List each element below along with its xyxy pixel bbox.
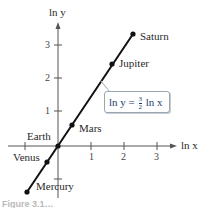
label-mercury: Mercury <box>36 181 74 192</box>
label-mars: Mars <box>79 123 102 134</box>
x-tick-label-3: 3 <box>154 152 159 162</box>
equation-lhs: ln y = <box>109 96 135 108</box>
point-jupiter <box>109 61 114 66</box>
y-axis-label: ln y <box>49 7 66 18</box>
x-axis-label: ln x <box>181 140 198 151</box>
y-tick-label-3: 3 <box>45 40 50 50</box>
figure-caption: Figure 3.1… <box>2 199 54 208</box>
x-axis-label-text: ln x <box>181 139 198 151</box>
x-tick-label-2: 2 <box>121 152 126 162</box>
point-earth <box>55 143 60 148</box>
point-saturn <box>130 31 135 36</box>
x-tick-label-1: 1 <box>89 152 94 162</box>
y-axis-arrow-icon <box>56 22 61 29</box>
equation-fraction: 3 2 <box>139 96 143 111</box>
point-mars <box>69 122 74 127</box>
y-tick-label-2: 2 <box>45 73 50 83</box>
regression-line <box>27 34 133 192</box>
label-venus: Venus <box>13 152 40 163</box>
equation-callout: ln y = 3 2 ln x <box>104 91 170 113</box>
y-tick-label-1: 1 <box>45 106 50 116</box>
point-mercury <box>24 189 29 194</box>
y-axis-label-text: ln y <box>49 6 66 18</box>
label-saturn: Saturn <box>140 31 169 42</box>
label-earth: Earth <box>27 131 51 142</box>
equation-denominator: 2 <box>139 104 143 111</box>
x-axis-arrow-icon <box>170 144 177 149</box>
label-jupiter: Jupiter <box>119 58 149 69</box>
equation-rhs: ln x <box>146 96 163 108</box>
point-venus <box>44 159 49 164</box>
